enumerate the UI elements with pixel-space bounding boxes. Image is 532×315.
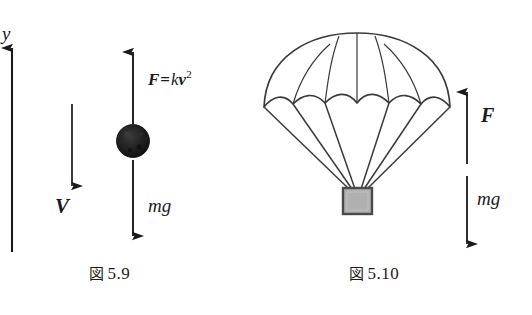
caption-prefix-5-10: 図 bbox=[349, 265, 368, 283]
equals-sign: = bbox=[159, 70, 171, 89]
suspension-lines bbox=[264, 103, 450, 189]
velocity-vector-symbol: v bbox=[179, 70, 187, 89]
physics-figure-pair: y V F=kv2 mg F mg 図5.9 図5.10 bbox=[0, 0, 532, 315]
caption-number-5-10: 5.10 bbox=[368, 264, 400, 283]
weight-label-parachute: mg bbox=[477, 189, 500, 208]
velocity-label: V bbox=[55, 196, 69, 217]
y-axis-label: y bbox=[2, 24, 10, 43]
drag-force-equation: F=kv2 bbox=[148, 71, 192, 88]
parachute-canopy bbox=[264, 33, 450, 107]
drag-exponent: 2 bbox=[186, 68, 192, 80]
caption-figure-5-10: 図5.10 bbox=[349, 262, 399, 284]
caption-figure-5-9: 図5.9 bbox=[89, 262, 130, 284]
drag-force-symbol: F bbox=[148, 70, 159, 89]
caption-number-5-9: 5.9 bbox=[108, 264, 131, 283]
caption-prefix-5-9: 図 bbox=[89, 265, 108, 283]
payload-box bbox=[343, 188, 372, 214]
force-label-parachute: F bbox=[481, 105, 494, 125]
sphere-body bbox=[117, 125, 150, 158]
weight-label-sphere: mg bbox=[148, 196, 171, 215]
drag-coefficient-symbol: k bbox=[171, 70, 179, 89]
diagram-canvas bbox=[0, 0, 532, 315]
